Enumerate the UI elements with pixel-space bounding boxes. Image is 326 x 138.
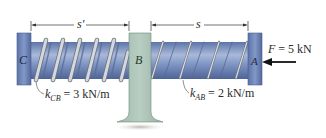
spring-diagram [0, 0, 326, 138]
leader-ab [183, 80, 189, 93]
k-value: = 3 kN/m [64, 87, 110, 101]
spring-ab-label: kAB = 2 kN/m [190, 86, 254, 102]
wall-shadow [112, 123, 168, 131]
force-label: F = 5 kN [268, 42, 312, 57]
label-point-a: A [251, 55, 258, 67]
label-point-c: C [19, 53, 27, 68]
k-value: = 2 kN/m [208, 86, 254, 100]
leader-cb [36, 82, 44, 94]
spring-cb-label: kCB = 3 kN/m [45, 87, 110, 103]
force-value: = 5 kN [275, 42, 311, 56]
label-point-b: B [135, 53, 142, 68]
label-s: s [196, 17, 201, 32]
k-subscript: CB [50, 94, 60, 103]
label-s-prime: s′ [77, 17, 84, 32]
k-subscript: AB [195, 93, 205, 102]
force-arrow [262, 58, 296, 66]
